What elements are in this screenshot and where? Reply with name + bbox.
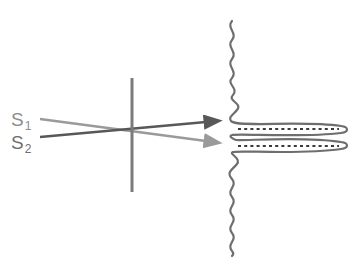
source-label-s2-sub: 2 [25,142,32,156]
source-label-s1-main: S [11,109,24,130]
figure-canvas: S1 S2 [0,0,354,270]
source-label-s2-main: S [11,132,24,153]
source-label-s1-sub: 1 [25,119,32,133]
diffraction-figure: S1 S2 [0,0,354,270]
